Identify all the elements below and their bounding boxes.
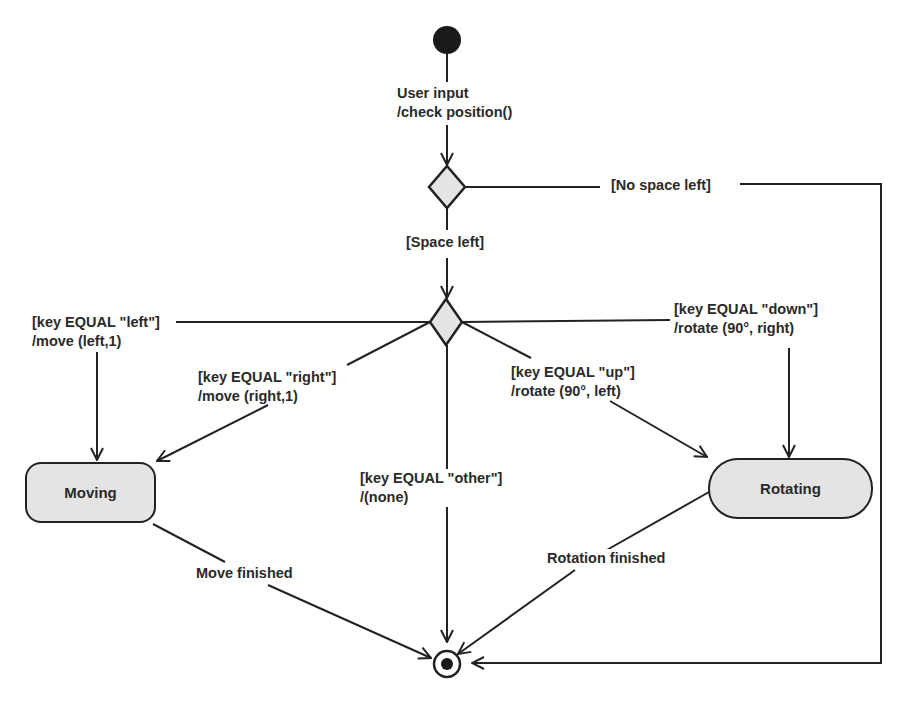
edge-no-space-b xyxy=(472,184,881,663)
edge-rotation-finished-b xyxy=(458,570,575,654)
guard-text: [key EQUAL "left"] xyxy=(32,313,163,332)
action-text: /move (right,1) xyxy=(198,387,336,406)
guard-text: [key EQUAL "right"] xyxy=(198,368,336,387)
move-finished-label: Move finished xyxy=(196,564,293,583)
initial-event-label: User input /check position() xyxy=(397,84,512,122)
guard-no-space-left: [No space left] xyxy=(611,176,711,195)
action-text: /(none) xyxy=(360,488,502,507)
decision-node-key xyxy=(430,299,462,345)
edge-right-b xyxy=(157,405,268,461)
initial-node xyxy=(433,26,461,54)
action-text: /check position() xyxy=(397,103,512,122)
decision-node-space xyxy=(429,166,465,208)
event-text: User input xyxy=(397,84,512,103)
action-text: /rotate (90°, right) xyxy=(674,319,818,338)
action-text: /move (left,1) xyxy=(32,332,163,351)
edge-right-a xyxy=(347,322,430,365)
guard-text: [key EQUAL "down"] xyxy=(674,300,818,319)
guard-text: [key EQUAL "other"] xyxy=(360,469,502,488)
transition-up-label: [key EQUAL "up"] /rotate (90°, left) xyxy=(511,363,635,401)
guard-text: [key EQUAL "up"] xyxy=(511,363,635,382)
edge-move-finished-a xyxy=(153,524,225,562)
edge-up-a xyxy=(462,322,531,358)
rotation-finished-label: Rotation finished xyxy=(547,549,665,568)
edge-rotation-finished-a xyxy=(598,492,709,555)
state-rotating: Rotating xyxy=(708,458,873,519)
edge-move-finished-b xyxy=(268,585,431,658)
transition-left-label: [key EQUAL "left"] /move (left,1) xyxy=(32,313,163,351)
edge-down-a xyxy=(462,320,670,322)
state-moving: Moving xyxy=(25,462,156,523)
action-text: /rotate (90°, left) xyxy=(511,382,635,401)
guard-space-left: [Space left] xyxy=(406,233,484,252)
transition-down-label: [key EQUAL "down"] /rotate (90°, right) xyxy=(674,300,818,338)
edge-up-b xyxy=(610,401,707,457)
transition-right-label: [key EQUAL "right"] /move (right,1) xyxy=(198,368,336,406)
transition-other-label: [key EQUAL "other"] /(none) xyxy=(360,469,502,507)
